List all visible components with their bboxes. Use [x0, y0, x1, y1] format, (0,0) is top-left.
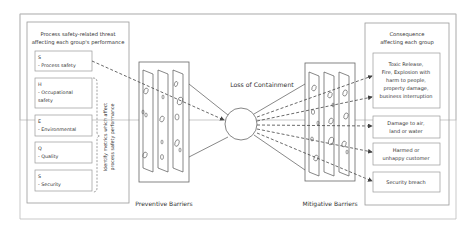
threat-group-security: S - Security: [35, 170, 92, 191]
bowtie-diagram: Process safety-related threat affecting …: [0, 0, 468, 233]
consequence-harmed-customer: Harmed or unhappy customer: [373, 143, 440, 165]
consequence-text: land or water: [389, 128, 423, 134]
bowtie-edge: [254, 84, 305, 114]
bowtie-edge: [189, 137, 228, 157]
consequence-text: unhappy customer: [382, 155, 430, 162]
mitigative-barriers: [305, 63, 355, 181]
consequence-text: Harmed or: [393, 147, 421, 153]
consequence-text: harm to people,: [386, 77, 426, 84]
group-name: - Process safety: [38, 63, 76, 68]
metrics-note-1: Identify metrics which affect: [103, 103, 108, 171]
consequence-text: property damage,: [383, 85, 428, 92]
consequence-text: Damage to air,: [387, 120, 425, 127]
consequence-environmental-damage: Damage to air, land or water: [373, 116, 440, 138]
group-name-2: safety: [38, 98, 53, 103]
bowtie-edge: [254, 135, 305, 170]
threat-group-process-safety: S - Process safety: [35, 51, 92, 71]
preventive-barriers: [139, 62, 189, 182]
threat-panel-title-2: affecting each group's performance: [32, 39, 125, 46]
group-code: S: [38, 55, 41, 60]
group-code: S: [38, 174, 41, 179]
metrics-note: Identify metrics which affect process sa…: [103, 103, 115, 171]
group-name: - Security: [38, 182, 61, 187]
group-code: E: [38, 119, 41, 124]
consequence-text: business interruption: [380, 93, 433, 100]
consequence-text: Security breach: [386, 179, 425, 186]
group-code: Q: [38, 146, 42, 151]
group-name: - Environmental: [38, 127, 76, 132]
consequence-security-breach: Security breach: [373, 172, 440, 192]
loss-of-containment-node: [225, 108, 257, 140]
loss-of-containment-label: Loss of Containment: [230, 81, 294, 88]
threat-panel-title-1: Process safety-related threat: [41, 31, 116, 38]
consequence-panel-title-2: affecting each group: [380, 39, 434, 46]
mitigative-barriers-label: Mitigative Barriers: [302, 200, 357, 208]
threat-group-occupational-safety: H - Occupational safety: [35, 78, 92, 108]
consequence-text: Fire, Explosion with: [382, 69, 430, 76]
threat-group-environmental: E - Environmental: [35, 115, 92, 136]
bowtie-edge: [189, 84, 228, 115]
metrics-note-2: process safety performance: [110, 103, 115, 170]
metrics-bracket: [93, 78, 100, 192]
consequence-toxic-release: Toxic Release, Fire, Explosion with harm…: [373, 53, 440, 108]
group-name: - Quality: [38, 154, 59, 159]
preventive-barriers-label: Preventive Barriers: [135, 200, 192, 207]
group-code: H: [38, 82, 42, 87]
threat-group-quality: Q - Quality: [35, 142, 92, 163]
group-name: - Occupational: [38, 90, 73, 95]
consequence-panel-title-1: Consequence: [389, 31, 424, 38]
consequence-text: Toxic Release,: [388, 61, 424, 67]
